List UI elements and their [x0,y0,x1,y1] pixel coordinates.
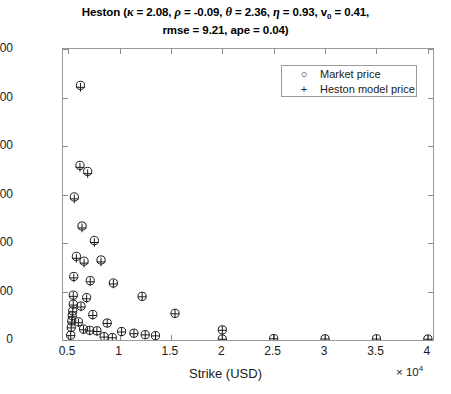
heston-model-price-point [82,294,91,303]
y-tick-label: 0 [0,333,13,345]
title-v0-value: = 0.41, [331,6,369,18]
heston-price-scatter-figure: Heston (κ = 2.08, ρ = -0.09, θ = 2.36, η… [0,0,451,394]
chart-title: Heston (κ = 2.08, ρ = -0.09, θ = 2.36, η… [0,4,451,39]
plus-marker: + [294,82,314,97]
x-axis-exponent: × 104 [396,364,423,378]
title-rho-value: = -0.09, [181,6,226,18]
heston-model-price-point [80,259,89,268]
y-tick-label: 1200 [0,42,13,54]
legend-box: ○Market price+Heston model price [281,65,417,97]
x-tick-label: 4 [397,345,451,357]
heston-model-price-point [76,163,85,172]
series-market-price [67,81,432,340]
heston-model-price-point [83,169,92,178]
series-heston-model-price [66,83,432,340]
heston-model-price-point [86,278,95,287]
title-eta-value: = 0.93, [280,6,321,18]
y-tick-mark-right [428,340,433,341]
heston-model-price-point [76,83,85,92]
title-line-2: rmse = 9.21, ape = 0.04) [0,22,451,39]
legend-entry: ○Market price [282,67,418,82]
heston-model-price-point [69,274,78,283]
title-theta-value: = 2.36, [232,6,273,18]
title-v0-subscript: 0 [327,12,331,21]
y-tick-mark [63,340,68,341]
title-line-1: Heston (κ = 2.08, ρ = -0.09, θ = 2.36, η… [82,6,369,18]
title-kappa-value: = 2.08, [134,6,175,18]
y-tick-label: 600 [0,188,13,200]
y-tick-label: 400 [0,236,13,248]
heston-model-price-point [78,224,87,233]
heston-model-price-point [70,195,79,204]
circle-marker: ○ [294,67,314,82]
x-axis-title: Strike (USD) [0,366,451,381]
y-tick-label: 1000 [0,91,13,103]
legend-label: Market price [320,67,381,82]
y-tick-label: 800 [0,139,13,151]
heston-model-price-point [97,258,106,267]
heston-model-price-point [72,254,81,263]
legend-label: Heston model price [320,82,415,97]
y-tick-label: 200 [0,285,13,297]
heston-model-price-point [90,238,99,247]
heston-model-price-point [69,292,78,301]
legend-entry: +Heston model price [282,82,418,97]
